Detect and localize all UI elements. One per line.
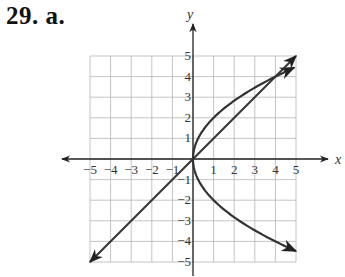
x-axis-label: x — [334, 152, 342, 167]
x-tick-label: 1 — [210, 162, 217, 177]
y-tick-label: 5 — [185, 48, 192, 63]
y-tick-label: 2 — [185, 110, 192, 125]
x-tick-label: −2 — [145, 162, 159, 177]
x-tick-label: 5 — [293, 162, 300, 177]
x-tick-label: 2 — [231, 162, 238, 177]
y-tick-label: 4 — [185, 69, 192, 84]
graph: xy−5−4−3−2−11234554321−1−2−3−4−5 — [0, 0, 345, 277]
y-tick-label: 1 — [185, 130, 192, 145]
y-tick-label: −4 — [177, 233, 191, 248]
x-tick-label: 3 — [252, 162, 259, 177]
y-axis-label: y — [185, 7, 194, 22]
x-tick-label: −3 — [124, 162, 138, 177]
y-tick-label: −2 — [177, 192, 191, 207]
y-tick-label: −3 — [177, 213, 191, 228]
y-tick-label: −5 — [177, 254, 191, 269]
y-tick-label: 3 — [185, 89, 192, 104]
x-tick-label: −4 — [104, 162, 118, 177]
x-tick-label: −5 — [83, 162, 97, 177]
x-tick-label: 4 — [272, 162, 279, 177]
